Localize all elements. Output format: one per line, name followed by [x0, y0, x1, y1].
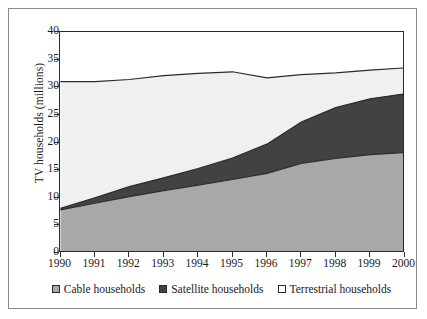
legend-label: Cable households: [64, 283, 145, 295]
legend-swatch-icon: [159, 285, 167, 293]
x-tick-label: 2000: [384, 258, 424, 270]
legend-swatch-icon: [278, 285, 286, 293]
plot-frame: [59, 31, 404, 252]
y-tick-mark: [54, 252, 59, 253]
legend-swatch-icon: [52, 285, 60, 293]
stacked-area-plot: [60, 32, 404, 252]
chart-legend: Cable householdsSatellite householdsTerr…: [27, 283, 416, 295]
legend-item[interactable]: Terrestrial households: [278, 283, 392, 295]
figure-border: TV households (millions) 403530252015105…: [8, 8, 417, 309]
chart-figure: TV households (millions) 403530252015105…: [0, 0, 427, 319]
legend-item[interactable]: Cable households: [52, 283, 145, 295]
legend-label: Terrestrial households: [290, 283, 392, 295]
y-axis: 4035302520151050: [27, 9, 59, 274]
legend-item[interactable]: Satellite households: [159, 283, 263, 295]
legend-label: Satellite households: [171, 283, 263, 295]
plot-area: [59, 31, 404, 252]
